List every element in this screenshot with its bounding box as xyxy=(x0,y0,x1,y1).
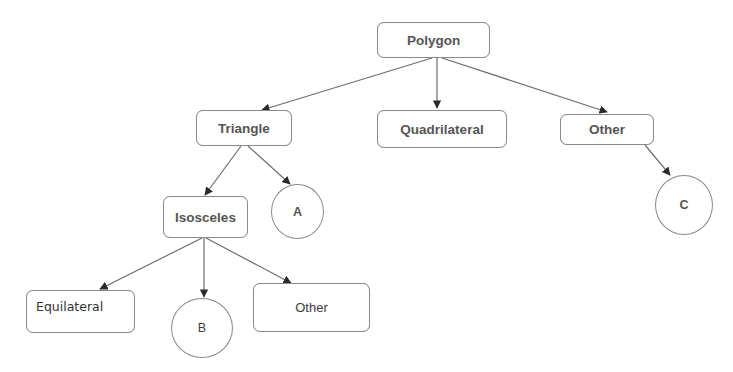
node-other-bottom-label: Other xyxy=(295,300,328,315)
edge-polygon-other xyxy=(442,58,607,112)
node-circle-a-label: A xyxy=(293,205,302,219)
node-triangle: Triangle xyxy=(196,110,292,146)
edge-other-c xyxy=(645,145,670,175)
node-isosceles: Isosceles xyxy=(163,196,248,238)
node-circle-a: A xyxy=(271,184,324,239)
edge-isosceles-other xyxy=(206,238,291,283)
node-equilateral-label: Equilateral xyxy=(36,299,103,314)
node-triangle-label: Triangle xyxy=(218,121,270,136)
node-isosceles-label: Isosceles xyxy=(175,210,236,225)
node-circle-b-label: B xyxy=(198,321,206,335)
node-other-top: Other xyxy=(560,114,654,145)
node-polygon-label: Polygon xyxy=(407,33,460,48)
node-quadrilateral-label: Quadrilateral xyxy=(400,122,483,137)
edge-polygon-triangle xyxy=(262,58,432,110)
polygon-classification-diagram: Polygon Triangle Quadrilateral Other Iso… xyxy=(0,0,733,372)
node-other-top-label: Other xyxy=(589,122,625,137)
edge-triangle-isosceles xyxy=(205,146,241,195)
edge-isosceles-equilateral xyxy=(100,238,202,289)
node-quadrilateral: Quadrilateral xyxy=(377,110,507,148)
node-polygon: Polygon xyxy=(377,22,490,58)
node-circle-c-label: C xyxy=(679,198,688,212)
node-other-bottom: Other xyxy=(253,283,370,332)
edge-triangle-a xyxy=(248,146,290,184)
node-circle-b: B xyxy=(171,298,233,358)
node-circle-c: C xyxy=(655,175,713,235)
node-equilateral: Equilateral xyxy=(26,290,135,333)
